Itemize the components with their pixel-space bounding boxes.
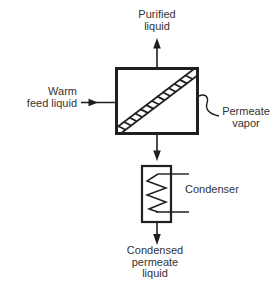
warm-feed-line2: feed liquid <box>0 98 77 110</box>
membrane-hatching <box>118 75 193 130</box>
membrane-band <box>116 69 198 134</box>
purified-liquid-line2: liquid <box>138 21 175 33</box>
purified-liquid-line1: Purified <box>138 9 175 21</box>
condenser-coil <box>147 174 166 212</box>
purified-liquid-label: Purified liquid <box>138 9 175 32</box>
permeate-vapor-arrow <box>153 134 161 161</box>
permeate-vapor-line1: Permeate <box>222 106 270 118</box>
condenser-label: Condenser <box>185 184 239 196</box>
warm-feed-liquid-label: Warm feed liquid <box>0 86 77 109</box>
permeate-leader-line <box>199 95 219 116</box>
condensed-liquid-arrow <box>153 222 161 245</box>
condensed-permeate-liquid-label: Condensed permeate liquid <box>127 245 183 280</box>
purified-liquid-arrow <box>153 38 161 68</box>
permeate-vapor-line2: vapor <box>222 118 270 130</box>
warm-feed-line1: Warm <box>0 86 77 98</box>
permeate-vapor-label: Permeate vapor <box>222 106 270 129</box>
condensed-line3: liquid <box>127 268 183 280</box>
condensed-line1: Condensed <box>127 245 183 257</box>
feed-arrow <box>81 99 116 106</box>
process-flow-diagram: Purified liquid Warm feed liquid Permeat… <box>0 0 277 292</box>
condenser-unit <box>142 166 189 222</box>
